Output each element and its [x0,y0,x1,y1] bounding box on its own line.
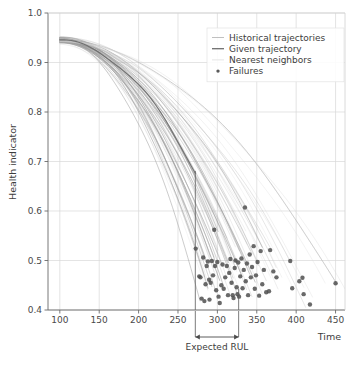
failure-point [308,302,312,306]
failure-point [215,260,219,264]
failure-point [300,276,304,280]
failure-point [274,275,278,279]
legend-entry-label: Historical trajectories [229,33,326,43]
x-tick-label: 250 [169,315,186,325]
failure-point [226,293,230,297]
failure-point [239,256,243,260]
failure-point [257,293,261,297]
failure-point [231,296,235,300]
failure-point [198,275,202,279]
failure-point [240,286,244,290]
failure-point [297,279,301,283]
failure-point [223,275,227,279]
failure-point [233,266,237,270]
y-tick-label: 0.6 [28,206,43,216]
expected-rul-label: Expected RUL [186,342,249,352]
failure-point [203,282,207,286]
legend-entry-label: Given trajectory [229,44,302,54]
x-axis-title: Time [317,331,341,342]
legend-dot-swatch [216,69,219,72]
failure-point [246,293,250,297]
failure-point [268,248,272,252]
failure-point [247,252,251,256]
figure-container: 100150200250300350400450 0.40.50.60.70.8… [0,0,360,368]
failure-point [249,275,253,279]
failure-point [220,262,224,266]
failure-point [213,264,217,268]
failure-point [242,268,246,272]
health-indicator-chart: 100150200250300350400450 0.40.50.60.70.8… [0,0,360,368]
failure-point [244,279,248,283]
failure-point [260,282,264,286]
failure-point [228,257,232,261]
failure-point [333,281,337,285]
x-tick-label: 450 [327,315,344,325]
y-tick-label: 0.8 [28,107,43,117]
y-tick-label: 0.9 [28,58,43,68]
y-tick-label: 0.5 [28,256,42,266]
failure-point [216,294,220,298]
x-tick-label: 350 [248,315,265,325]
failure-point [288,259,292,263]
failure-point [210,259,214,263]
failure-point [255,260,259,264]
y-tick-label: 1.0 [28,8,43,18]
legend-entry-label: Failures [229,66,264,76]
failure-point [253,287,257,291]
failure-point [211,273,215,277]
x-tick-label: 300 [209,315,226,325]
chart-legend: Historical trajectoriesGiven trajectoryN… [207,28,344,82]
x-tick-label: 150 [91,315,108,325]
failure-point [205,264,209,268]
failure-point [290,286,294,290]
failure-point [229,281,233,285]
failure-point [245,261,249,265]
failure-point [262,268,266,272]
failure-point [221,287,225,291]
x-tick-label: 100 [51,315,68,325]
failure-point [236,260,240,264]
failure-point [271,269,275,273]
x-tick-label: 200 [130,315,147,325]
legend-entry-label: Nearest neighbors [229,55,312,65]
y-tick-label: 0.4 [28,305,43,315]
failure-point [234,285,238,289]
failure-point [267,289,271,293]
y-tick-label: 0.7 [28,157,42,167]
failure-point [227,271,231,275]
failure-point [238,274,242,278]
failure-point [214,288,218,292]
failure-point [259,249,263,253]
x-tick-label: 400 [288,315,305,325]
failure-point [201,255,205,259]
failure-point [207,297,211,301]
failure-point [218,301,222,305]
failure-point [202,299,206,303]
failure-point [250,265,254,269]
failure-point [208,281,212,285]
failure-point [251,244,255,248]
failure-point [301,292,305,296]
failure-point [212,228,216,232]
failure-point [225,264,229,268]
y-axis-title: Health indicator [7,124,18,200]
failure-point [243,205,247,209]
failure-point [254,273,258,277]
failure-point [206,259,210,263]
